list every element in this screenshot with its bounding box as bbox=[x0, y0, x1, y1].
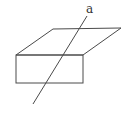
front-rectangle bbox=[16, 55, 83, 83]
geometry-diagram: a bbox=[0, 0, 121, 114]
line-a-label: a bbox=[86, 2, 93, 16]
plane-parallelogram bbox=[16, 28, 121, 55]
